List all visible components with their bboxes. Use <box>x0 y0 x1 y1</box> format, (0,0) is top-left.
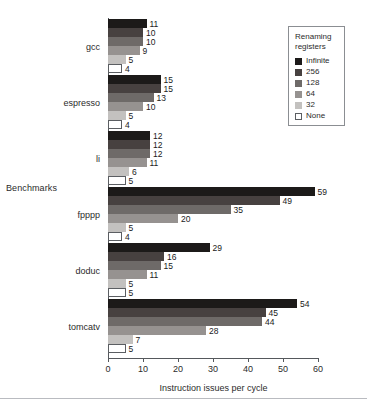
bar-row: 10 <box>108 102 318 111</box>
bar-row: 11 <box>108 19 318 28</box>
bar-row: 5 <box>108 288 318 297</box>
bar-gcc-None <box>108 64 122 73</box>
bar-value-label: 10 <box>143 102 155 111</box>
legend-swatch-icon <box>295 69 302 76</box>
legend-label: 256 <box>306 68 319 76</box>
bar-gcc-128 <box>108 37 143 46</box>
bar-value-label: 4 <box>122 120 130 129</box>
bar-li-64 <box>108 158 147 167</box>
legend-label: None <box>306 112 325 120</box>
legend-swatch-icon <box>295 113 302 120</box>
legend-item-64[interactable]: 64 <box>295 89 344 99</box>
legend-item-128[interactable]: 128 <box>295 78 344 88</box>
bar-row: 5 <box>108 176 318 185</box>
x-tick <box>248 358 249 362</box>
bar-doduc-256 <box>108 252 164 261</box>
bar-espresso-64 <box>108 102 143 111</box>
bar-row: 45 <box>108 308 318 317</box>
bar-espresso-Infinite <box>108 75 161 84</box>
legend-title-line2: registers <box>295 42 343 52</box>
bar-row: 11 <box>108 158 318 167</box>
legend-swatch-icon <box>295 58 302 65</box>
category-label-gcc: gcc <box>86 42 100 52</box>
bar-value-label: 28 <box>206 326 218 335</box>
x-tick <box>283 358 284 362</box>
bar-tomcatv-64 <box>108 326 206 335</box>
bar-value-label: 5 <box>126 344 134 353</box>
bar-row: 35 <box>108 205 318 214</box>
bar-row: 7 <box>108 335 318 344</box>
bar-row: 13 <box>108 93 318 102</box>
legend-label: 64 <box>306 90 315 98</box>
bar-row: 11 <box>108 270 318 279</box>
bar-row: 49 <box>108 196 318 205</box>
bar-value-label: 13 <box>154 93 166 102</box>
bar-row: 5 <box>108 279 318 288</box>
bar-row: 5 <box>108 344 318 353</box>
bar-value-label: 29 <box>210 243 222 252</box>
bar-tomcatv-None <box>108 344 126 353</box>
bar-row: 4 <box>108 120 318 129</box>
bar-fpppp-64 <box>108 214 178 223</box>
x-tick-label: 50 <box>278 364 288 374</box>
bar-doduc-64 <box>108 270 147 279</box>
bar-doduc-32 <box>108 279 126 288</box>
bar-chart: Benchmarks gcc111010954espresso151513105… <box>0 0 367 410</box>
bar-value-label: 44 <box>262 317 274 326</box>
x-tick-label: 60 <box>313 364 323 374</box>
bar-gcc-256 <box>108 28 143 37</box>
bar-value-label: 5 <box>126 288 134 297</box>
bar-fpppp-256 <box>108 196 280 205</box>
plot-area: gcc111010954espresso1515131054li12121211… <box>108 18 318 358</box>
bar-group-gcc: gcc111010954 <box>108 19 318 75</box>
legend-swatch-icon <box>295 102 302 109</box>
x-tick <box>178 358 179 362</box>
bar-value-label: 11 <box>147 270 159 279</box>
legend-item-Infinite[interactable]: Infinite <box>295 56 344 66</box>
bar-row: 9 <box>108 46 318 55</box>
legend-title-line1: Renaming <box>295 32 343 42</box>
bar-row: 29 <box>108 243 318 252</box>
legend: Renaming registers Infinite2561286432Non… <box>288 26 345 126</box>
category-label-tomcatv: tomcatv <box>68 322 100 332</box>
x-tick-label: 0 <box>105 364 110 374</box>
category-label-fpppp: fpppp <box>77 210 100 220</box>
bar-row: 15 <box>108 261 318 270</box>
bar-espresso-None <box>108 120 122 129</box>
bar-group-li: li1212121165 <box>108 131 318 187</box>
legend-item-None[interactable]: None <box>295 111 344 121</box>
bar-fpppp-128 <box>108 205 231 214</box>
bar-row: 20 <box>108 214 318 223</box>
legend-label: Infinite <box>306 57 330 65</box>
bar-value-label: 49 <box>280 196 292 205</box>
legend-items: Infinite2561286432None <box>295 56 344 121</box>
bar-row: 10 <box>108 37 318 46</box>
bar-doduc-Infinite <box>108 243 210 252</box>
bar-li-32 <box>108 167 129 176</box>
bar-group-tomcatv: tomcatv5445442875 <box>108 299 318 355</box>
bar-row: 6 <box>108 167 318 176</box>
bar-row: 12 <box>108 149 318 158</box>
legend-item-256[interactable]: 256 <box>295 67 344 77</box>
bar-row: 10 <box>108 28 318 37</box>
x-tick <box>108 358 109 362</box>
legend-label: 128 <box>306 79 319 87</box>
x-tick-label: 10 <box>138 364 148 374</box>
bar-fpppp-None <box>108 232 122 241</box>
bar-value-label: 59 <box>315 187 327 196</box>
legend-label: 32 <box>306 101 315 109</box>
bar-value-label: 15 <box>161 261 173 270</box>
bar-row: 15 <box>108 75 318 84</box>
category-label-espresso: espresso <box>63 98 100 108</box>
bar-gcc-32 <box>108 55 126 64</box>
bar-li-128 <box>108 149 150 158</box>
category-label-doduc: doduc <box>75 266 100 276</box>
bar-value-label: 35 <box>231 205 243 214</box>
bar-doduc-None <box>108 288 126 297</box>
bar-row: 12 <box>108 131 318 140</box>
bar-group-fpppp: fpppp5949352054 <box>108 187 318 243</box>
x-tick-label: 40 <box>243 364 253 374</box>
bar-row: 4 <box>108 64 318 73</box>
legend-item-32[interactable]: 32 <box>295 100 344 110</box>
bar-value-label: 11 <box>147 158 159 167</box>
